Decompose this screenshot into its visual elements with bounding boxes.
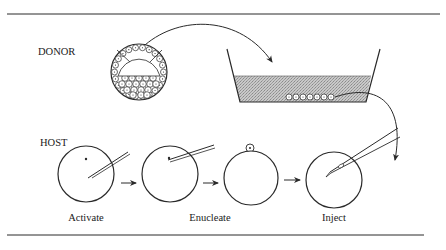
donor-label: DONOR: [38, 46, 75, 57]
donor-cell-nucleus: [316, 96, 317, 97]
step-label-inject: Inject: [322, 212, 346, 223]
trophectoderm-cell-nucleus: [162, 64, 163, 65]
trophectoderm-cell-nucleus: [128, 94, 129, 95]
inner-cell-mass-cell-nucleus: [138, 77, 139, 78]
trophectoderm-cell-nucleus: [162, 78, 163, 79]
oocyte-enucleate: [142, 145, 215, 202]
nuclear-transfer-diagram: DONOR HOST Activate Enucleate Inject: [0, 0, 446, 250]
inner-cell-mass-cell-nucleus: [146, 94, 147, 95]
inner-cell-mass-cell-nucleus: [126, 89, 127, 90]
trophectoderm-cell-nucleus: [135, 47, 136, 48]
trophectoderm-cell-nucleus: [159, 58, 160, 59]
transfer-arrow-to-dish: [145, 24, 272, 62]
oocyte-inject: [306, 128, 400, 208]
inner-cell-mass-cell-nucleus: [142, 83, 143, 84]
trophectoderm-cell-nucleus: [128, 49, 129, 50]
inner-cell-mass-cell-nucleus: [145, 77, 146, 78]
transfer-arrow-to-pipette: [335, 93, 397, 160]
inner-cell-mass-cell-nucleus: [128, 83, 129, 84]
donor-cell-nucleus: [309, 96, 310, 97]
inner-cell-mass-cell-nucleus: [132, 94, 133, 95]
culture-dish: [227, 49, 380, 102]
donor-cell-nucleus: [288, 96, 289, 97]
inner-cell-mass-cell-nucleus: [147, 89, 148, 90]
donor-cell-nucleus: [302, 96, 303, 97]
trophectoderm-cell-nucleus: [122, 53, 123, 54]
oocyte-enucleated: [224, 144, 278, 205]
inner-cell-mass-cell-nucleus: [155, 83, 156, 84]
inner-cell-mass-cell-nucleus: [152, 77, 153, 78]
step-label-enucleate: Enucleate: [189, 212, 231, 223]
host-label: HOST: [40, 137, 68, 148]
trophectoderm-cell-nucleus: [118, 58, 119, 59]
donor-cell-nucleus: [295, 96, 296, 97]
trophectoderm-cell-nucleus: [142, 47, 143, 48]
inner-cell-mass-cell-nucleus: [133, 89, 134, 90]
donor-cell-nucleus: [330, 96, 331, 97]
trophectoderm-cell-nucleus: [114, 71, 115, 72]
step-label-activate: Activate: [68, 212, 104, 223]
donor-blastocyst: [111, 44, 167, 100]
inner-cell-mass-cell-nucleus: [140, 89, 141, 90]
inner-cell-mass-cell-nucleus: [124, 77, 125, 78]
inner-cell-mass-cell-nucleus: [135, 83, 136, 84]
trophectoderm-cell-nucleus: [163, 71, 164, 72]
inner-cell-mass-cell-nucleus: [149, 83, 150, 84]
nucleus-dot: [168, 157, 170, 159]
nucleus-dot: [85, 158, 87, 160]
trophectoderm-cell-nucleus: [154, 90, 155, 91]
trophectoderm-cell-nucleus: [149, 49, 150, 50]
trophectoderm-cell-nucleus: [115, 78, 116, 79]
inner-cell-mass-cell-nucleus: [121, 83, 122, 84]
oocyte-activate: [58, 146, 130, 202]
inner-cell-mass-cell-nucleus: [131, 77, 132, 78]
trophectoderm-cell-nucleus: [115, 64, 116, 65]
donor-cell-nucleus: [323, 96, 324, 97]
trophectoderm-cell-nucleus: [154, 53, 155, 54]
inner-cell-mass-cell-nucleus: [140, 94, 141, 95]
